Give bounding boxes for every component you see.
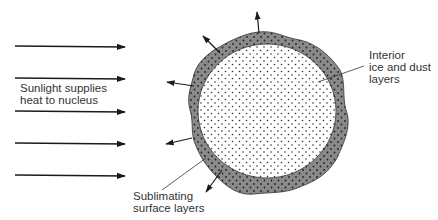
sunlight-arrow-1: [15, 46, 125, 47]
sunlight-arrow-2: [15, 78, 125, 79]
sunlight-arrows: [15, 46, 125, 176]
outflow-arrow-top: [257, 12, 259, 33]
outflow-arrow-left: [167, 82, 194, 86]
sunlight-label: Sunlight supplies heat to nucleus: [20, 82, 107, 106]
outflow-arrow-lower-left: [166, 138, 192, 144]
outflow-arrow-upper-left: [203, 36, 220, 53]
sublimating-layers-label: Sublimating surface layers: [133, 190, 205, 214]
sunlight-arrow-4: [15, 143, 125, 144]
sublimating-leader-line: [162, 158, 206, 190]
sunlight-arrow-3: [15, 111, 125, 112]
interior-ice-dust-core: [198, 44, 336, 178]
comet-nucleus-diagram: [0, 0, 438, 220]
interior-layers-label: Interior ice and dust layers: [369, 49, 431, 85]
sunlight-arrow-5: [15, 175, 125, 176]
